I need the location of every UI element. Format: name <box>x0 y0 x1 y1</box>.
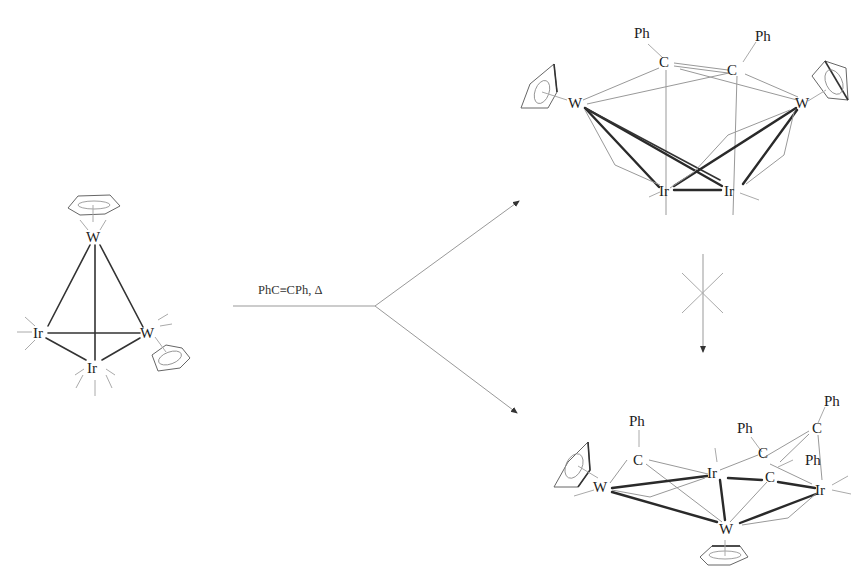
blocked-conversion-arrow <box>682 254 723 352</box>
cyclopentadienyl-ring-icon <box>554 442 598 487</box>
atom-ph-left: Ph <box>634 25 650 41</box>
atom-w-left: W <box>568 95 583 111</box>
cyclopentadienyl-ring-icon <box>68 195 120 222</box>
atom-ph-2: Ph <box>737 420 753 436</box>
arrow-to-bottom-product-icon <box>375 306 517 413</box>
product-top-cluster: Ph Ph C C W W Ir Ir <box>521 25 848 215</box>
cyclopentadienyl-ring-icon <box>152 337 190 371</box>
atom-c-3: C <box>812 420 822 436</box>
atom-w-bottom: W <box>719 521 734 537</box>
cyclopentadienyl-ring-icon <box>521 64 567 108</box>
atom-c-right: C <box>727 62 737 78</box>
atom-ir-left: Ir <box>659 183 669 199</box>
atom-w-right: W <box>140 325 155 341</box>
atom-ph-right: Ph <box>755 28 771 44</box>
atom-c-2: C <box>758 445 768 461</box>
atom-w-left: W <box>593 479 608 495</box>
reaction-conditions: PhC≡CPh, Δ <box>258 283 322 297</box>
reaction-scheme: W Ir W Ir PhC≡CPh, Δ <box>0 0 867 575</box>
arrow-to-top-product-icon <box>375 201 519 306</box>
atom-ph-4: Ph <box>805 452 821 468</box>
atom-w-right: W <box>795 95 810 111</box>
atom-ir-bottom: Ir <box>87 360 97 376</box>
atom-ph-1: Ph <box>629 413 645 429</box>
atom-ir-mid: Ir <box>707 465 717 481</box>
reaction-arrow-group: PhC≡CPh, Δ <box>233 201 519 413</box>
product-bottom-cluster: Ph C W Ir Ph C Ph C C Ph Ir W <box>554 393 851 565</box>
atom-ph-3: Ph <box>824 393 840 409</box>
cyclopentadienyl-ring-icon <box>808 61 848 101</box>
atom-c-1: C <box>633 452 643 468</box>
atom-c-left: C <box>659 54 669 70</box>
cyclopentadienyl-ring-icon <box>700 540 748 565</box>
reactant-cluster: W Ir W Ir <box>17 195 190 396</box>
atom-c-4: C <box>765 469 775 485</box>
atom-ir-right: Ir <box>724 183 734 199</box>
atom-w-top: W <box>86 229 101 245</box>
atom-ir-right: Ir <box>815 482 825 498</box>
atom-ir-left: Ir <box>33 325 43 341</box>
